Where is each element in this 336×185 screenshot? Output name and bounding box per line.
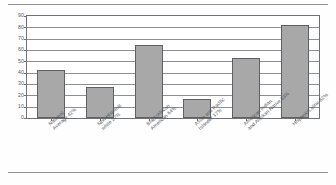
y-axis-tick-label: 70 xyxy=(2,36,24,41)
x-axis-label-slot: Asian and PacificIslander 17% xyxy=(173,120,222,166)
x-axis-label-slot: Non-Hispanicwhite 27% xyxy=(76,120,125,166)
y-axis-tick-label: 50 xyxy=(2,59,24,64)
y-axis-tick-label: 40 xyxy=(2,70,24,75)
y-axis-tick-label: 0 xyxy=(2,115,24,120)
bottom-divider-rule xyxy=(8,172,328,173)
y-axis-tick-label: 60 xyxy=(2,47,24,52)
y-axis-tick-label: 90 xyxy=(2,13,24,18)
y-axis-tick-label: 20 xyxy=(2,93,24,98)
chart-page: 9080706050403020100 NationalAverage 42%N… xyxy=(0,0,336,185)
y-axis: 9080706050403020100 xyxy=(0,15,24,119)
bar[interactable] xyxy=(281,25,309,118)
bar-chart: 9080706050403020100 NationalAverage 42%N… xyxy=(0,13,336,165)
x-axis-label-slot: Black/AfricanAmerican 64% xyxy=(124,120,173,166)
x-axis-category-labels: NationalAverage 42%Non-Hispanicwhite 27%… xyxy=(27,120,319,166)
bar[interactable] xyxy=(135,45,163,118)
top-divider-rule xyxy=(8,4,328,5)
x-axis-label-slot: American Indianand Alaskan Native 53% xyxy=(222,120,271,166)
y-axis-tick-label: 80 xyxy=(2,25,24,30)
x-axis-label-slot: Hispanic/Latino 82% xyxy=(270,120,319,166)
y-axis-tick-label: 10 xyxy=(2,104,24,109)
y-axis-tick-label: 30 xyxy=(2,81,24,86)
x-axis-label-slot: NationalAverage 42% xyxy=(27,120,76,166)
